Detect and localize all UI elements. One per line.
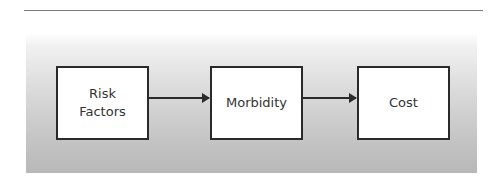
node-label-risk-factors: Risk Factors: [79, 85, 126, 121]
arrow-risk-factors-to-morbidity: [149, 97, 209, 99]
node-cost: Cost: [357, 66, 450, 140]
node-risk-factors: Risk Factors: [56, 66, 149, 140]
node-label-morbidity: Morbidity: [226, 94, 287, 112]
node-morbidity: Morbidity: [210, 66, 303, 140]
node-label-cost: Cost: [389, 94, 418, 112]
arrow-morbidity-to-cost: [303, 97, 356, 99]
top-rule-divider: [24, 10, 483, 11]
